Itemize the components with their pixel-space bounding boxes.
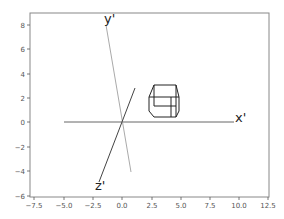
y-tick-label: 4 (21, 71, 26, 79)
x-tick-label: −5.0 (56, 202, 73, 210)
y-tick-label: 2 (21, 95, 25, 103)
x-tick-label: 10.0 (231, 202, 247, 210)
x-tick-label: −2.5 (85, 202, 102, 210)
x-tick-label: 0.0 (116, 202, 127, 210)
x-tick-label: 7.5 (204, 202, 215, 210)
y-tick-label: 8 (21, 22, 25, 30)
y-prime-label: y' (104, 11, 115, 26)
y-tick-label: −2 (15, 144, 25, 152)
y-tick-label: 0 (21, 119, 25, 127)
x-tick-label: 2.5 (146, 202, 157, 210)
chart: −7.5 −5.0 −2.5 0.0 2.5 5.0 7.5 10.0 12.5… (0, 0, 284, 219)
x-tick-label: 12.5 (260, 202, 276, 210)
y-tick-labels: 8 6 4 2 0 −2 −4 −6 (15, 22, 26, 201)
y-tick-label: −4 (15, 168, 26, 176)
x-tick-label: 5.0 (175, 202, 186, 210)
z-prime-label: z' (95, 178, 105, 193)
x-prime-label: x' (235, 110, 246, 125)
x-tick-labels: −7.5 −5.0 −2.5 0.0 2.5 5.0 7.5 10.0 12.5 (26, 202, 276, 210)
x-tick-label: −7.5 (26, 202, 43, 210)
y-tick-label: −6 (15, 193, 26, 201)
y-tick-label: 6 (21, 46, 26, 54)
